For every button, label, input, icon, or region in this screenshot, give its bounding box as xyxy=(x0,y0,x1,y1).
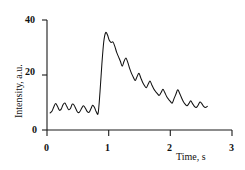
y-tick-label-20: 20 xyxy=(25,67,35,77)
x-tick-label-2: 2 xyxy=(167,143,172,153)
y-axis-title: Intensity, a.u. xyxy=(14,64,24,118)
intensity-time-chart: 40 20 0 0 1 2 3 Intensity, a.u. Time, s xyxy=(0,0,245,170)
intensity-curve xyxy=(50,32,207,114)
plot-area xyxy=(0,0,245,170)
y-tick-label-40: 40 xyxy=(25,15,35,25)
x-tick-label-0: 0 xyxy=(44,143,49,153)
x-tick-label-3: 3 xyxy=(229,143,234,153)
x-tick-label-1: 1 xyxy=(105,143,110,153)
y-axis xyxy=(42,20,47,130)
y-tick-label-0: 0 xyxy=(32,125,37,135)
x-axis-title: Time, s xyxy=(176,152,206,162)
x-axis xyxy=(47,130,232,136)
